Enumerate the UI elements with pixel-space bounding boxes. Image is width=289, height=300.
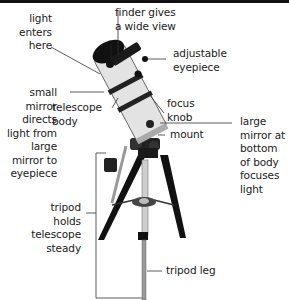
label-tripod: tripod holds telescope steady	[18, 201, 81, 255]
label-finder: finder gives a wide view	[115, 6, 176, 33]
eyepiece-illustration	[135, 71, 142, 78]
label-large-mirror: large mirror at bottom of body focuses l…	[240, 115, 285, 196]
mount-illustration	[130, 138, 160, 158]
focus-knob-illustration	[146, 120, 154, 128]
label-eyepiece: adjustable eyepiece	[173, 47, 227, 74]
label-light-enters: light enters here	[18, 12, 52, 53]
label-focus-knob: focus knob	[167, 97, 195, 124]
label-small-mirror: small mirror directs light from large mi…	[0, 86, 57, 181]
telescope-diagram: light enters here finder gives a wide vi…	[0, 0, 289, 300]
tripod	[98, 155, 186, 300]
label-mount: mount	[170, 128, 204, 142]
label-tripod-leg: tripod leg	[166, 264, 216, 278]
label-telescope-body: telescope body	[52, 101, 102, 128]
